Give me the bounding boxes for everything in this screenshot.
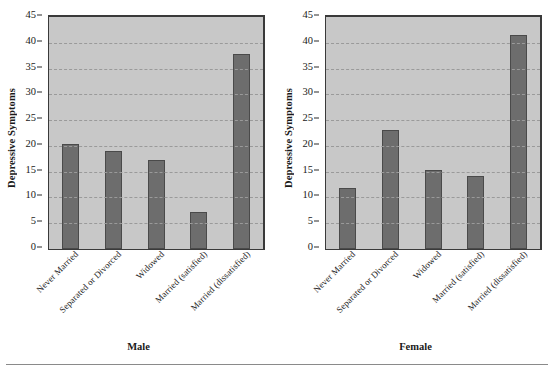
gridline <box>326 69 540 70</box>
y-tick-label: 0 <box>308 242 313 252</box>
bar <box>62 144 79 249</box>
gridline <box>326 94 540 95</box>
y-tick-mark <box>37 92 42 93</box>
y-tick-mark <box>314 118 319 119</box>
gridline <box>49 197 263 198</box>
y-axis-ticks-male: 454035302520151050 <box>16 15 42 247</box>
bar <box>233 54 250 249</box>
figure: Depressive Symptoms 454035302520151050 N… <box>0 0 554 373</box>
y-tick-label: 20 <box>303 139 314 149</box>
y-tick-mark <box>37 143 42 144</box>
bar <box>105 151 122 249</box>
y-tick-mark <box>37 247 42 248</box>
y-tick-label: 35 <box>26 62 37 72</box>
footer-divider <box>6 364 548 365</box>
x-category-label: Never Married <box>312 249 358 295</box>
y-tick-mark <box>37 15 42 16</box>
gridline <box>326 172 540 173</box>
y-tick-mark <box>314 15 319 16</box>
y-tick-label: 45 <box>303 10 314 20</box>
bar <box>382 130 399 249</box>
y-tick-label: 20 <box>26 139 37 149</box>
panel-male: Depressive Symptoms 454035302520151050 N… <box>0 0 277 373</box>
y-tick-label: 25 <box>303 113 314 123</box>
x-axis-category-labels-male: Never MarriedSeparated or DivorcedWidowe… <box>48 249 264 329</box>
y-tick-label: 10 <box>303 190 314 200</box>
y-tick-mark <box>314 40 319 41</box>
gridline <box>49 69 263 70</box>
x-category-label: Never Married <box>35 249 81 295</box>
y-tick-label: 30 <box>303 87 314 97</box>
bar <box>467 176 484 249</box>
y-tick-mark <box>37 118 42 119</box>
y-tick-label: 45 <box>26 10 37 20</box>
gridline <box>326 146 540 147</box>
y-tick-label: 15 <box>303 165 314 175</box>
y-tick-mark <box>314 195 319 196</box>
bar <box>190 212 207 249</box>
y-tick-label: 40 <box>303 36 314 46</box>
x-axis-category-labels-female: Never MarriedSeparated or DivorcedWidowe… <box>325 249 541 329</box>
y-tick-mark <box>314 92 319 93</box>
x-category-label: Widowed <box>411 249 443 281</box>
plot-area-female <box>325 15 542 250</box>
y-tick-label: 15 <box>26 165 37 175</box>
y-tick-mark <box>314 143 319 144</box>
y-tick-mark <box>314 247 319 248</box>
y-tick-mark <box>37 195 42 196</box>
group-title-female: Female <box>277 341 554 352</box>
y-tick-label: 5 <box>308 216 313 226</box>
y-tick-label: 30 <box>26 87 37 97</box>
y-tick-label: 5 <box>31 216 36 226</box>
y-tick-mark <box>314 66 319 67</box>
y-tick-mark <box>314 221 319 222</box>
gridline <box>326 120 540 121</box>
y-tick-label: 10 <box>26 190 37 200</box>
bars-male <box>49 17 263 249</box>
group-title-male: Male <box>0 341 277 352</box>
y-axis-ticks-female: 454035302520151050 <box>293 15 319 247</box>
y-tick-mark <box>37 169 42 170</box>
bar <box>148 160 165 249</box>
gridline <box>49 223 263 224</box>
y-tick-mark <box>37 221 42 222</box>
y-tick-label: 25 <box>26 113 37 123</box>
gridline <box>49 146 263 147</box>
gridline <box>49 94 263 95</box>
bar <box>425 170 442 249</box>
x-category-label: Widowed <box>134 249 166 281</box>
gridline <box>49 43 263 44</box>
gridline <box>326 223 540 224</box>
y-tick-mark <box>37 40 42 41</box>
y-tick-label: 0 <box>31 242 36 252</box>
y-tick-label: 40 <box>26 36 37 46</box>
bars-female <box>326 17 540 249</box>
y-tick-mark <box>37 66 42 67</box>
gridline <box>326 197 540 198</box>
bar <box>510 35 527 249</box>
y-tick-label: 35 <box>303 62 314 72</box>
plot-area-male <box>48 15 265 250</box>
gridline <box>49 120 263 121</box>
y-tick-mark <box>314 169 319 170</box>
panel-female: Depressive Symptoms 454035302520151050 N… <box>277 0 554 373</box>
gridline <box>326 43 540 44</box>
gridline <box>49 172 263 173</box>
